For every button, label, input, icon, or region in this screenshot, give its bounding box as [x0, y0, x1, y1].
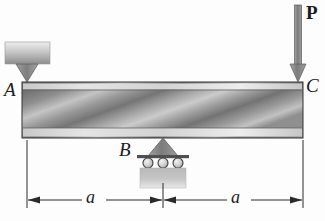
label-point-A: A	[4, 80, 16, 99]
support-b-roller	[158, 158, 168, 168]
load-arrow-head-icon	[290, 64, 306, 82]
diagram-canvas	[0, 0, 325, 221]
support-b-roller	[143, 158, 153, 168]
support-b-triangle-icon	[148, 138, 178, 156]
beam-member-AC	[22, 82, 303, 138]
label-dimension-left: a	[86, 188, 95, 206]
label-point-C: C	[306, 76, 319, 95]
dimension-arrowhead-left-inner	[150, 196, 162, 203]
roller-support-B	[137, 138, 189, 188]
point-load-P-arrow	[290, 5, 306, 82]
beam-diagram-figure: A B C P a a	[0, 0, 325, 221]
dimension-arrowhead-right-outer	[290, 196, 302, 203]
load-arrow-shaft	[295, 5, 302, 66]
beam-top-flange-strip	[23, 84, 302, 90]
beam-bottom-flange-strip	[23, 128, 302, 137]
label-load-P: P	[306, 3, 318, 22]
label-point-B: B	[119, 140, 131, 159]
support-a-wedge-icon	[16, 64, 38, 82]
pin-support-A	[5, 42, 50, 82]
dimension-arrowhead-right-inner	[164, 196, 176, 203]
support-a-block	[5, 42, 50, 64]
label-dimension-right: a	[231, 188, 240, 206]
dimension-arrowhead-left-outer	[28, 196, 40, 203]
support-b-roller	[173, 158, 183, 168]
